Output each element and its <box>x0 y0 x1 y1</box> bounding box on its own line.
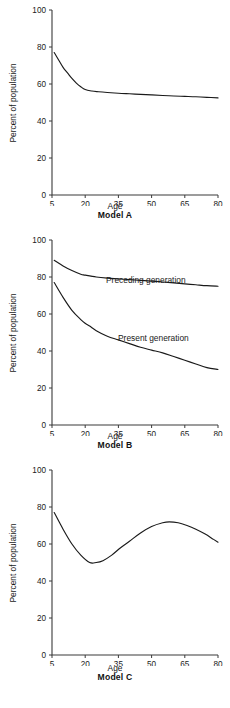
y-tick-label: 100 <box>32 6 46 15</box>
series-line <box>54 513 218 564</box>
plot-area-model-c: 0 20 40 60 80 100 5 20 35 50 65 80 Perce… <box>0 460 230 666</box>
y-tick-label: 40 <box>37 347 47 356</box>
panel-caption-model-b: Model B <box>0 440 230 450</box>
y-axis-title: Percent of population <box>8 293 18 372</box>
y-axis-title: Percent of population <box>8 523 18 602</box>
y-tick-label: 80 <box>37 43 47 52</box>
y-tick-label: 100 <box>32 236 46 245</box>
y-tick-label: 60 <box>37 80 47 89</box>
chart-panel-model-a: 0 20 40 60 80 100 5 20 35 50 65 80 Perce… <box>0 0 230 230</box>
panel-caption-model-c: Model C <box>0 672 230 682</box>
y-tick-label: 40 <box>37 577 47 586</box>
y-tick-label: 80 <box>37 503 47 512</box>
y-tick-label: 60 <box>37 540 47 549</box>
axis-lines <box>52 10 218 195</box>
series-label-present: Present generation <box>118 333 189 343</box>
y-axis-title: Percent of population <box>8 63 18 142</box>
chart-panel-model-b: 0 20 40 60 80 100 5 20 35 50 65 80 Perce… <box>0 230 230 460</box>
y-tick-label: 80 <box>37 273 47 282</box>
y-tick-label: 60 <box>37 310 47 319</box>
plot-area-model-a: 0 20 40 60 80 100 5 20 35 50 65 80 Perce… <box>0 0 230 206</box>
chart-panel-model-c: 0 20 40 60 80 100 5 20 35 50 65 80 Perce… <box>0 460 230 698</box>
series-label-preceding: Preceding generation <box>106 275 186 285</box>
series-line-present <box>54 283 218 370</box>
panel-caption-model-a: Model A <box>0 210 230 220</box>
y-tick-label: 40 <box>37 117 47 126</box>
y-tick-label: 20 <box>37 154 47 163</box>
axis-lines <box>52 470 218 655</box>
plot-area-model-b: 0 20 40 60 80 100 5 20 35 50 65 80 Perce… <box>0 230 230 436</box>
series-line <box>54 53 218 98</box>
figure-stack: 0 20 40 60 80 100 5 20 35 50 65 80 Perce… <box>0 0 230 698</box>
y-tick-label: 20 <box>37 384 47 393</box>
y-tick-label: 100 <box>32 466 46 475</box>
y-tick-label: 20 <box>37 614 47 623</box>
